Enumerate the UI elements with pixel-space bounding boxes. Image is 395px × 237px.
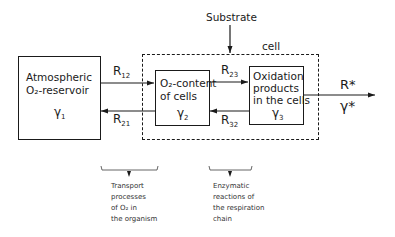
oxidation-products-box: Oxidation products in the cells γ3 <box>249 66 304 125</box>
oxidation-line-3: in the cells <box>253 94 310 106</box>
oxidation-line-1: Oxidation <box>253 70 304 82</box>
gamma-2: γ2 <box>177 106 189 122</box>
output-gamma-label: γ* <box>340 98 355 114</box>
atmospheric-line-2: O₂-reservoir <box>26 84 89 96</box>
transport-brace <box>101 166 158 170</box>
cells-line-1: O₂-content <box>160 77 216 89</box>
cell-o2-content-box: O₂-content of cells γ2 <box>155 70 210 126</box>
atmospheric-reservoir-box: Atmospheric O₂-reservoir γ1 <box>18 56 101 140</box>
r23-label: R23 <box>221 63 238 79</box>
output-rate-label: R* <box>340 77 356 92</box>
cell-label: cell <box>262 40 280 52</box>
r32-label: R32 <box>221 113 238 129</box>
atmospheric-line-1: Atmospheric <box>26 71 92 83</box>
oxidation-line-2: products <box>253 82 299 94</box>
cells-line-2: of cells <box>160 90 197 102</box>
gamma-3: γ3 <box>272 106 284 122</box>
transport-annotation: Transport processes of O₂ in the organis… <box>111 181 157 225</box>
enzymatic-brace <box>209 166 252 170</box>
r21-label: R21 <box>113 112 130 128</box>
r12-label: R12 <box>113 64 130 80</box>
gamma-1: γ1 <box>54 105 66 121</box>
enzymatic-annotation: Enzymatic reactions of the respiration c… <box>213 181 264 225</box>
substrate-label: Substrate <box>206 11 257 23</box>
